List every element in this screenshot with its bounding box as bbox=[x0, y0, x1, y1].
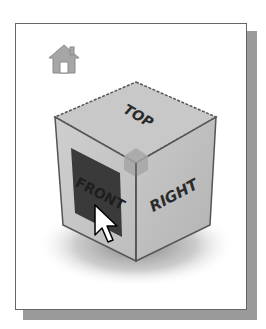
viewcube-scene: TOP FRONT RIGHT bbox=[0, 0, 266, 329]
home-icon[interactable] bbox=[49, 45, 79, 73]
